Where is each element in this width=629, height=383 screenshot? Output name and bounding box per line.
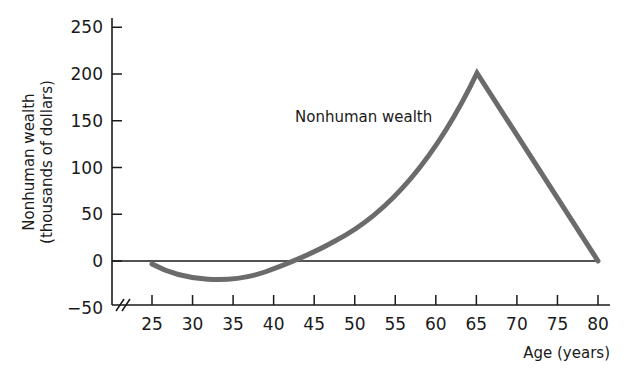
y-tick-label: −50 <box>67 298 103 318</box>
y-tick-label: 250 <box>71 17 103 37</box>
x-tick-label: 40 <box>263 314 285 334</box>
x-tick-label: 65 <box>466 314 488 334</box>
x-tick-label: 60 <box>425 314 447 334</box>
x-tick-label: 70 <box>506 314 528 334</box>
x-tick-label: 80 <box>587 314 609 334</box>
svg-text:Nonhuman wealth: Nonhuman wealth <box>20 93 38 230</box>
x-axis-title: Age (years) <box>523 344 610 362</box>
y-axis-ticks: −50050100150200250 <box>67 17 122 318</box>
x-tick-label: 30 <box>182 314 204 334</box>
nonhuman-wealth-curve <box>152 73 598 280</box>
y-tick-label: 50 <box>81 204 103 224</box>
svg-text:(thousands of dollars): (thousands of dollars) <box>38 80 56 244</box>
series-annotation: Nonhuman wealth <box>295 108 432 126</box>
x-tick-label: 25 <box>141 314 163 334</box>
y-tick-label: 100 <box>71 158 103 178</box>
x-tick-label: 75 <box>547 314 569 334</box>
x-tick-label: 55 <box>384 314 406 334</box>
chart: −50050100150200250 253035404550556065707… <box>0 0 629 383</box>
y-axis-title: Nonhuman wealth (thousands of dollars) <box>20 80 56 244</box>
x-tick-label: 45 <box>303 314 325 334</box>
y-tick-label: 200 <box>71 64 103 84</box>
x-tick-label: 50 <box>344 314 366 334</box>
y-tick-label: 150 <box>71 111 103 131</box>
x-tick-label: 35 <box>222 314 244 334</box>
y-tick-label: 0 <box>92 251 103 271</box>
x-axis-ticks: 253035404550556065707580 <box>141 295 609 334</box>
